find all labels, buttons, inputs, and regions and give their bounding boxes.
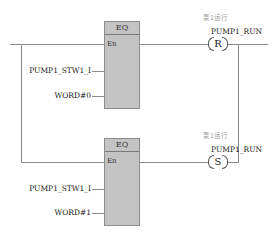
reset-coil-letter: R <box>214 38 222 49</box>
rung2-coil-comment: 泵1运行 <box>203 130 228 140</box>
rung1-coil-variable[interactable]: PUMP1_RUN <box>211 27 262 36</box>
coil-bracket-left <box>208 37 214 51</box>
rung1-input-1[interactable]: PUMP1_STW1_I <box>29 66 91 75</box>
eq-block-2-en: En <box>107 157 117 165</box>
reset-coil[interactable]: R <box>208 37 228 51</box>
rung2-input-2[interactable]: WORD#1 <box>54 208 91 217</box>
coil-bracket-right <box>222 155 228 169</box>
set-coil-letter: S <box>215 156 222 167</box>
eq-block-1-title: EQ <box>105 22 139 35</box>
set-coil[interactable]: S <box>208 155 228 169</box>
rung2-input-wire <box>21 162 105 163</box>
eq-block-1[interactable]: EQ En <box>104 21 140 109</box>
rung1-coil-comment: 泵1运行 <box>203 12 228 22</box>
eq-block-2[interactable]: EQ En <box>104 138 140 226</box>
in2-pin-wire <box>92 96 104 97</box>
rung2-input-1[interactable]: PUMP1_STW1_I <box>29 184 91 193</box>
left-input-wire <box>10 44 105 45</box>
rung1-output-wire <box>140 44 268 45</box>
in4-pin-wire <box>92 213 104 214</box>
eq-block-2-title: EQ <box>105 139 139 152</box>
rung1-input-2[interactable]: WORD#0 <box>54 91 91 100</box>
coil-bracket-right <box>222 37 228 51</box>
coil-bracket-left <box>208 155 214 169</box>
in1-pin-wire <box>92 71 104 72</box>
eq-block-1-en: En <box>107 40 117 48</box>
left-branch-vertical <box>21 44 22 163</box>
rung2-coil-variable[interactable]: PUMP1_RUN <box>211 145 262 154</box>
in3-pin-wire <box>92 189 104 190</box>
